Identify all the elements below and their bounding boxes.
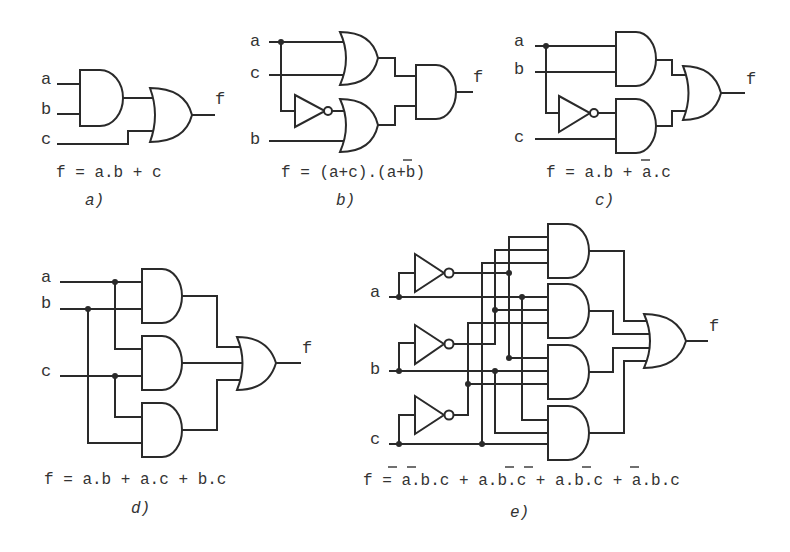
and-gate-ac [142, 336, 182, 390]
panel-c: a b c f f = a.b + a.c c) [514, 32, 756, 210]
input-label-b: b [41, 294, 51, 313]
input-label-a: a [370, 283, 380, 302]
input-label-a: a [41, 268, 51, 287]
input-label-c: c [41, 362, 51, 381]
panel-e: a b c [363, 224, 719, 522]
inverter-bubble [445, 411, 454, 420]
input-label-b: b [41, 100, 51, 119]
or-gate-1 [340, 32, 378, 85]
equation-b: f = (a+c).(a+b) [281, 164, 425, 182]
caption-a: a) [85, 192, 104, 210]
caption-b: b) [336, 192, 355, 210]
equation-c: f = a.b + a.c [546, 164, 671, 182]
input-label-b: b [514, 60, 524, 79]
and-gate-bc [142, 403, 182, 457]
input-label-c: c [41, 130, 51, 149]
panel-b: a c b f f = (a+c).(a+b) b) [250, 32, 483, 210]
bus-c [482, 263, 548, 444]
and-gate-ab [142, 269, 182, 323]
input-label-c: c [514, 128, 524, 147]
or-gate [150, 88, 192, 142]
input-label-c: c [370, 430, 380, 449]
junction-dot [278, 39, 284, 45]
junction-dot [543, 43, 549, 49]
inverter-bubble [445, 269, 454, 278]
junction-dot [85, 306, 91, 312]
not-gate [559, 96, 590, 132]
inverter-bubble [445, 340, 454, 349]
panel-a: a b c f f = a.b + c a) [41, 70, 225, 210]
and-to-or-wires [589, 251, 650, 433]
and-gate-2 [616, 99, 656, 153]
junction-dot [396, 294, 402, 300]
and-gate-1 [616, 32, 656, 86]
junction-dot [396, 368, 402, 374]
junction-dot [492, 368, 498, 374]
junction-dot [519, 294, 525, 300]
junction-dot [465, 381, 471, 387]
equation-d: f = a.b + a.c + b.c [44, 471, 226, 489]
and-gate [80, 70, 123, 126]
junction-dot [479, 441, 485, 447]
junction-dot [506, 355, 512, 361]
input-label-a: a [41, 70, 51, 89]
not-gate-a [415, 254, 444, 292]
or-gate-2 [340, 99, 378, 152]
logic-circuits-figure: a b c f f = a.b + c a) a c b f f = (a+c)… [0, 0, 790, 552]
output-label-f: f [302, 339, 312, 358]
input-label-c: c [250, 64, 260, 83]
output-label-f: f [746, 70, 756, 89]
caption-e: e) [510, 504, 529, 522]
caption-c: c) [595, 192, 614, 210]
output-label-f: f [215, 90, 225, 109]
input-label-a: a [250, 32, 260, 51]
inverter-bubble [324, 107, 332, 115]
junction-dot [112, 279, 118, 285]
junction-dot [396, 441, 402, 447]
junction-dot [112, 373, 118, 379]
inverter-bubble [590, 109, 598, 117]
and-gate-1 [548, 224, 589, 278]
equation-e: f = a.b.c + a.b.c + a.b.c + a.b.c [363, 472, 680, 490]
junction-dot [492, 307, 498, 313]
not-gate-b [415, 325, 444, 364]
input-label-b: b [370, 360, 380, 379]
junction-dot [506, 270, 512, 276]
input-label-a: a [514, 32, 524, 51]
output-label-f: f [709, 317, 719, 336]
wires [270, 42, 416, 141]
or-gate [683, 66, 721, 120]
and-gate-4 [548, 406, 589, 460]
not-gate [295, 95, 325, 127]
bus-c-bar [454, 323, 548, 415]
input-label-b: b [250, 130, 260, 149]
output-label-f: f [473, 68, 483, 87]
and-gate [416, 65, 456, 119]
panel-d: a b c f f = a.b + a.c + b.c d) [41, 268, 312, 518]
or-gate [237, 337, 276, 390]
not-gate-c [415, 396, 444, 434]
caption-d: d) [131, 500, 150, 518]
and-gate-2 [548, 284, 589, 338]
and-gate-3 [548, 345, 589, 399]
equation-a: f = a.b + c [56, 164, 162, 182]
or-gate [644, 314, 686, 368]
